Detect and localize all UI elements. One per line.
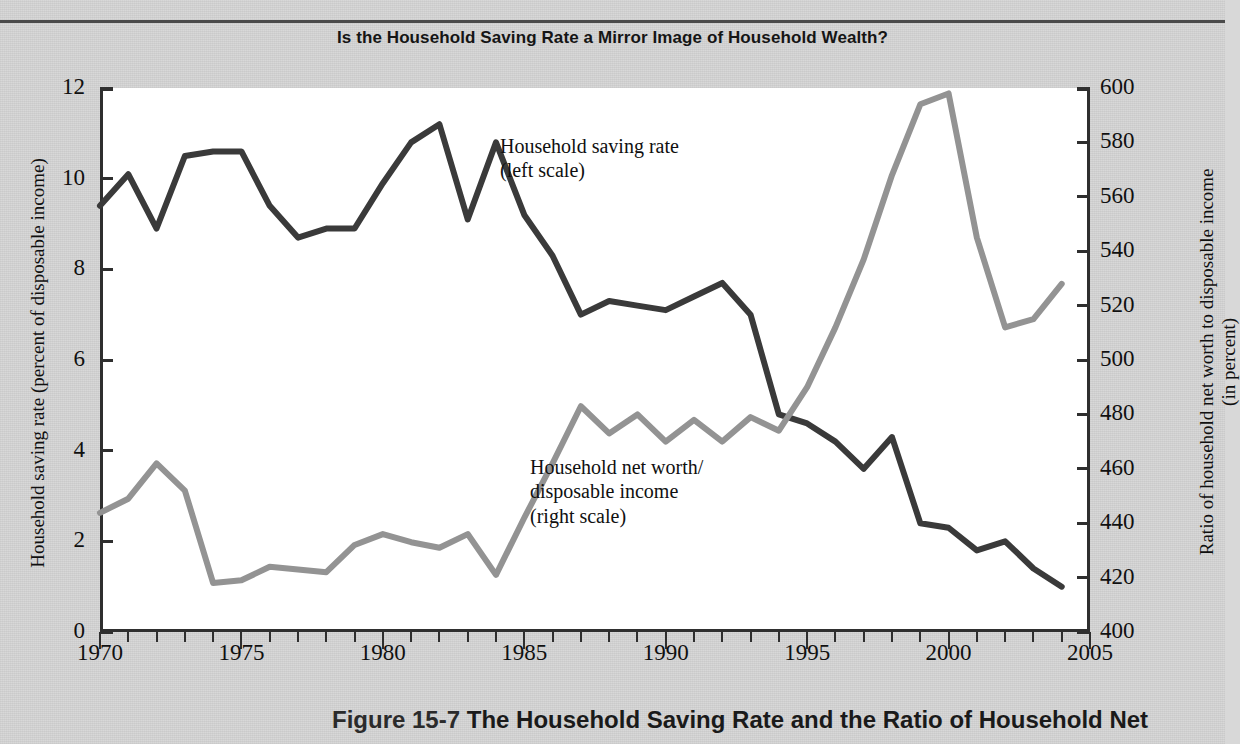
x-tick-minor	[184, 632, 186, 642]
y-tick-left	[100, 87, 113, 90]
y-tick-left	[100, 631, 113, 634]
x-tick-minor	[721, 632, 723, 642]
y-tick-right	[1077, 304, 1090, 307]
x-tick-minor	[580, 632, 582, 642]
y-tick-label-left: 6	[25, 347, 85, 370]
x-tick-minor	[156, 632, 158, 642]
y-tick-left	[100, 268, 113, 271]
y-tick-right	[1077, 250, 1090, 253]
y-tick-label-left: 4	[25, 438, 85, 461]
x-tick-label: 2005	[1045, 640, 1135, 666]
y-tick-label-right: 420	[1100, 565, 1170, 588]
y-tick-left	[100, 540, 113, 543]
y-tick-label-right: 480	[1100, 401, 1170, 424]
y-tick-right	[1077, 195, 1090, 198]
net-worth-annotation-scale: (right scale)	[530, 505, 626, 527]
saving-rate-annotation-name: Household saving rate	[500, 135, 679, 157]
y-tick-right	[1077, 359, 1090, 362]
x-tick-minor	[297, 632, 299, 642]
x-tick-label: 1975	[196, 640, 286, 666]
figure-caption: Figure 15-7 The Household Saving Rate an…	[332, 706, 1225, 734]
y-tick-label-left: 2	[25, 528, 85, 551]
x-tick-minor	[467, 632, 469, 642]
figure-number: Figure 15-7	[332, 706, 460, 733]
x-tick-label: 2000	[904, 640, 994, 666]
y-tick-right	[1077, 576, 1090, 579]
y-tick-label-left: 12	[25, 75, 85, 98]
y-tick-label-left: 8	[25, 256, 85, 279]
y-tick-label-right: 600	[1100, 75, 1170, 98]
y-tick-label-right: 540	[1100, 238, 1170, 261]
y-tick-label-left: 0	[25, 619, 85, 642]
x-tick-minor	[438, 632, 440, 642]
x-tick-minor	[891, 632, 893, 642]
y-tick-label-right: 440	[1100, 510, 1170, 533]
x-tick-minor	[863, 632, 865, 642]
y-tick-right	[1077, 141, 1090, 144]
y-tick-right	[1077, 522, 1090, 525]
saving-rate-annotation: Household saving rate (left scale)	[500, 134, 679, 183]
x-tick-label: 1970	[55, 640, 145, 666]
x-tick-label: 1980	[338, 640, 428, 666]
x-tick-label: 1995	[762, 640, 852, 666]
y-tick-label-right: 520	[1100, 293, 1170, 316]
figure-caption-text: The Household Saving Rate and the Ratio …	[467, 706, 1148, 733]
x-tick-label: 1985	[479, 640, 569, 666]
saving-rate-annotation-scale: (left scale)	[500, 159, 585, 181]
x-tick-label: 1990	[621, 640, 711, 666]
x-tick-minor	[750, 632, 752, 642]
y-tick-right	[1077, 467, 1090, 470]
x-tick-minor	[1032, 632, 1034, 642]
y-tick-label-right: 560	[1100, 184, 1170, 207]
net-worth-annotation-line1: Household net worth/	[530, 456, 703, 478]
x-tick-minor	[608, 632, 610, 642]
net-worth-annotation: Household net worth/ disposable income (…	[530, 455, 703, 528]
y-tick-right	[1077, 413, 1090, 416]
y-tick-label-right: 580	[1100, 129, 1170, 152]
y-tick-left	[100, 359, 113, 362]
net-worth-annotation-line2: disposable income	[530, 480, 678, 502]
y-tick-left	[100, 177, 113, 180]
y-tick-label-right: 400	[1100, 619, 1170, 642]
y-tick-left	[100, 449, 113, 452]
y-tick-label-right: 500	[1100, 347, 1170, 370]
y-tick-right	[1077, 87, 1090, 90]
x-tick-minor	[1004, 632, 1006, 642]
y-tick-label-right: 460	[1100, 456, 1170, 479]
y-tick-label-left: 10	[25, 166, 85, 189]
x-tick-minor	[325, 632, 327, 642]
